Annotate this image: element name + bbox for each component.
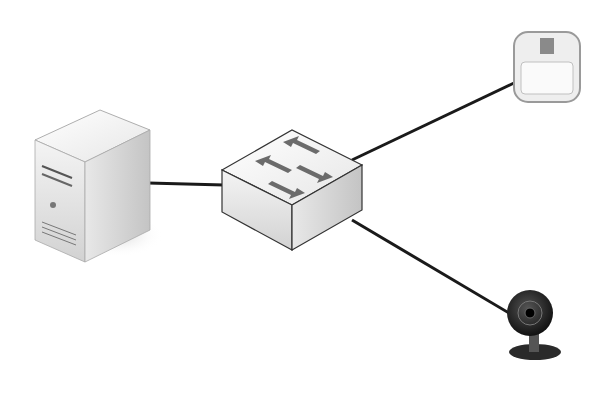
network-diagram	[0, 0, 613, 395]
motion-sensor-icon[interactable]	[514, 32, 580, 102]
server-icon[interactable]	[35, 110, 163, 262]
switch-icon[interactable]	[222, 130, 362, 250]
link-switch-sensor	[352, 83, 514, 160]
diagram-svg	[0, 0, 613, 395]
camera-icon[interactable]	[507, 290, 561, 360]
link-switch-camera	[352, 220, 514, 316]
link-server-switch	[148, 183, 224, 185]
